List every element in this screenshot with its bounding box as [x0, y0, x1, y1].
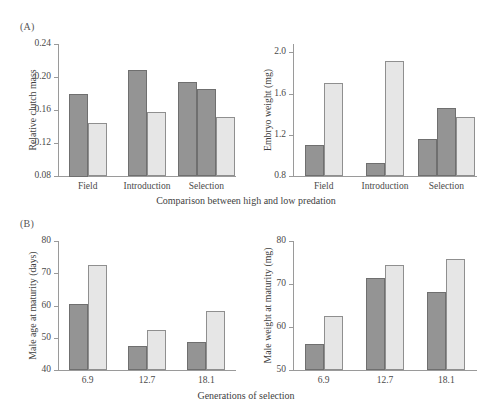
- bar: [324, 316, 343, 370]
- chart-relative-clutch-mass: 0.080.120.160.200.24Relative clutch mass…: [18, 38, 240, 196]
- xaxis-label-panel-b: Generations of selection: [0, 391, 492, 401]
- y-axis-title: Male weight at maturity (mg): [263, 241, 273, 370]
- y-axis-tick: [289, 135, 293, 136]
- y-axis-tick: [54, 143, 58, 144]
- y-axis-tick: [289, 176, 293, 177]
- panel-tag-b: (B): [20, 218, 34, 229]
- bar: [427, 292, 446, 370]
- bar: [206, 311, 225, 370]
- bar: [385, 61, 404, 176]
- bar: [197, 89, 216, 176]
- y-axis-title: Male age at maturity (days): [28, 241, 38, 370]
- y-axis-line: [58, 44, 59, 176]
- bar: [305, 145, 324, 176]
- x-axis-category-label: Selection: [177, 182, 236, 192]
- bar: [437, 108, 456, 176]
- y-axis-tick: [54, 44, 58, 45]
- y-axis-tick: [54, 77, 58, 78]
- bar: [69, 94, 88, 177]
- y-axis-line: [293, 44, 294, 176]
- bar: [147, 112, 166, 176]
- x-axis-category-label: 12.7: [354, 376, 415, 386]
- bar: [418, 139, 437, 176]
- bar: [216, 117, 235, 176]
- x-axis-category-label: Selection: [416, 182, 477, 192]
- chart-embryo-weight: 0.81.21.62.0Embryo weight (mg)FieldIntro…: [253, 38, 481, 196]
- y-axis-tick: [289, 241, 293, 242]
- bar: [456, 117, 475, 176]
- x-axis-category-label: Introduction: [117, 182, 176, 192]
- bar: [305, 344, 324, 370]
- y-axis-tick: [54, 176, 58, 177]
- x-axis-category-label: Field: [58, 182, 117, 192]
- x-axis-category-label: Introduction: [354, 182, 415, 192]
- y-axis-line: [58, 241, 59, 370]
- bar: [187, 342, 206, 370]
- chart-male-weight-at-maturity: 50607080Male weight at maturity (mg)6.91…: [253, 235, 481, 390]
- x-axis-category-label: 18.1: [416, 376, 477, 386]
- bar: [128, 346, 147, 370]
- panel-tag-a: (A): [20, 21, 34, 32]
- bar: [324, 83, 343, 176]
- y-axis-tick: [289, 370, 293, 371]
- x-axis-category-label: 12.7: [117, 376, 176, 386]
- y-axis-line: [293, 241, 294, 370]
- bar: [178, 82, 197, 176]
- y-axis-title: Relative clutch mass: [28, 44, 38, 176]
- figure-canvas: (A) (B) 0.080.120.160.200.24Relative clu…: [0, 0, 492, 408]
- xaxis-label-panel-a: Comparison between high and low predatio…: [0, 196, 492, 206]
- bar: [366, 163, 385, 176]
- y-axis-tick: [54, 370, 58, 371]
- y-axis-tick: [54, 241, 58, 242]
- y-axis-tick: [289, 52, 293, 53]
- x-axis-line: [293, 176, 477, 177]
- bar: [446, 259, 465, 370]
- y-axis-tick: [54, 338, 58, 339]
- y-axis-title: Embryo weight (mg): [263, 44, 273, 176]
- x-axis-category-label: 6.9: [293, 376, 354, 386]
- bar: [88, 265, 107, 370]
- bar: [88, 123, 107, 176]
- y-axis-tick: [289, 327, 293, 328]
- x-axis-category-label: 18.1: [177, 376, 236, 386]
- bar: [147, 330, 166, 370]
- y-axis-tick: [289, 94, 293, 95]
- y-axis-tick: [54, 273, 58, 274]
- x-axis-category-label: 6.9: [58, 376, 117, 386]
- chart-male-age-at-maturity: 4050607080Male age at maturity (days)6.9…: [18, 235, 240, 390]
- x-axis-category-label: Field: [293, 182, 354, 192]
- bar: [69, 304, 88, 370]
- y-axis-tick: [289, 284, 293, 285]
- x-axis-line: [293, 370, 477, 371]
- y-axis-tick: [54, 306, 58, 307]
- y-axis-tick: [54, 110, 58, 111]
- bar: [385, 265, 404, 370]
- bar: [366, 278, 385, 370]
- x-axis-line: [58, 370, 236, 371]
- bar: [128, 70, 147, 176]
